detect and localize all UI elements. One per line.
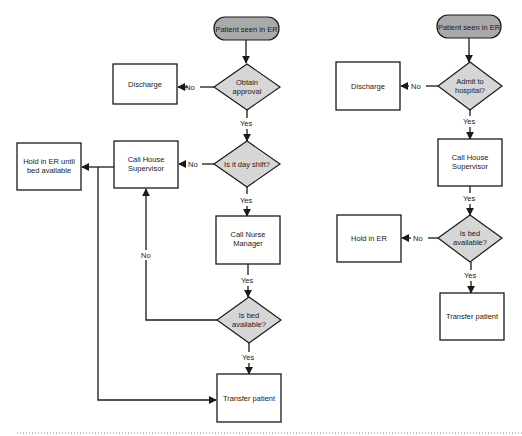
edge-label-yes: Yes [463, 117, 475, 126]
process-label-line2: Supervisor [128, 164, 164, 173]
process-discharge-left[interactable]: Discharge [113, 64, 177, 104]
right-flowchart: No Yes Yes No Yes Patient seen in ER [336, 15, 504, 340]
left-flowchart: No Yes No Yes Yes No [17, 17, 281, 422]
terminal-label: Patient seen in ER [438, 23, 501, 32]
process-label-line2: bed available [27, 166, 71, 175]
decision-is-bed-available-left[interactable]: Is bed available? [217, 297, 281, 343]
decision-label-line1: Is bed [460, 229, 480, 238]
process-call-house-supervisor-right[interactable]: Call House Supervisor [438, 139, 502, 186]
process-label: Discharge [351, 82, 385, 91]
edge-label-yes: Yes [240, 196, 252, 205]
edge-label-yes: Yes [464, 271, 476, 280]
edge-label-no: No [411, 82, 421, 91]
edge-left-housesup-to-transfer [98, 167, 216, 400]
edge-left-bed-to-housesup [146, 260, 217, 320]
process-label-line1: Hold in ER until [23, 157, 75, 166]
edge-label-no: No [185, 83, 195, 92]
process-label-line2: Manager [233, 239, 263, 248]
decision-obtain-approval[interactable]: Obtain approval [214, 64, 280, 110]
edge-label-yes: Yes [241, 276, 253, 285]
edge-label-no: No [141, 251, 151, 260]
process-transfer-patient-left[interactable]: Transfer patient [217, 374, 281, 422]
decision-is-it-day-shift[interactable]: Is it day shift? [214, 141, 280, 187]
flowchart-canvas: No Yes No Yes Yes No [0, 0, 522, 436]
terminal-label: Patient seen in ER [215, 25, 278, 34]
process-call-nurse-manager[interactable]: Call Nurse Manager [216, 216, 280, 264]
process-discharge-right[interactable]: Discharge [336, 62, 400, 110]
edge-label-no: No [413, 234, 423, 243]
decision-label: Is it day shift? [224, 160, 270, 169]
decision-label-line2: hospital? [455, 86, 485, 95]
decision-label-line2: available? [453, 238, 487, 247]
terminal-patient-seen-in-er-left[interactable]: Patient seen in ER [214, 17, 279, 40]
decision-label-line2: available? [232, 320, 266, 329]
process-label-line1: Call House [128, 155, 165, 164]
process-label: Transfer patient [446, 312, 499, 321]
process-label: Hold in ER [351, 234, 387, 243]
decision-label-line1: Admit to [456, 77, 484, 86]
edge-label-no: No [188, 160, 198, 169]
process-transfer-patient-right[interactable]: Transfer patient [440, 293, 504, 340]
decision-admit-to-hospital[interactable]: Admit to hospital? [438, 62, 502, 110]
terminal-patient-seen-in-er-right[interactable]: Patient seen in ER [437, 15, 501, 38]
decision-label-line1: Obtain [236, 78, 258, 87]
process-label-line1: Call Nurse [230, 230, 265, 239]
decision-is-bed-available-right[interactable]: Is bed available? [438, 215, 502, 262]
process-label: Discharge [128, 80, 162, 89]
decision-label-line2: approval [233, 87, 262, 96]
process-label-line2: Supervisor [452, 162, 488, 171]
process-label-line1: Call House [452, 153, 489, 162]
process-hold-in-er-until-bed-available[interactable]: Hold in ER until bed available [17, 143, 81, 190]
process-call-house-supervisor-left[interactable]: Call House Supervisor [114, 141, 178, 188]
process-hold-in-er-right[interactable]: Hold in ER [337, 215, 401, 262]
decision-label-line1: Is bed [239, 311, 259, 320]
edge-label-yes: Yes [242, 353, 254, 362]
edge-label-yes: Yes [240, 119, 252, 128]
edge-label-yes: Yes [463, 194, 475, 203]
process-label: Transfer patient [223, 394, 276, 403]
